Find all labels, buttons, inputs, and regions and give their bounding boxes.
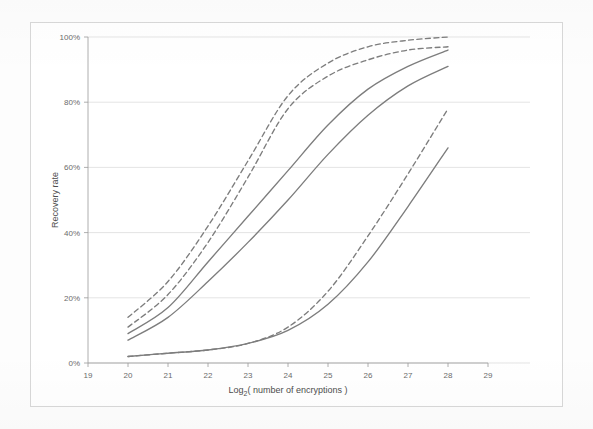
y-tick-label: 60%: [64, 163, 80, 172]
x-tick-label: 22: [204, 371, 213, 380]
x-tick-label: 27: [404, 371, 413, 380]
x-tick-label: 26: [364, 371, 373, 380]
y-tick-marks: [84, 37, 88, 363]
y-tick-label: 80%: [64, 98, 80, 107]
x-tick-label: 23: [244, 371, 253, 380]
y-tick-label: 20%: [64, 294, 80, 303]
x-tick-marks: [88, 363, 488, 367]
x-tick-label: 28: [444, 371, 453, 380]
data-series-group: [128, 37, 448, 356]
chart-figure: 0%20%40%60%80%100% 192021222324252627282…: [0, 0, 593, 429]
y-tick-label: 100%: [60, 33, 80, 42]
x-tick-label: 24: [284, 371, 293, 380]
y-axis-title: Recovery rate: [50, 172, 60, 228]
x-tick-label: 21: [164, 371, 173, 380]
x-tick-labels: 1920212223242526272829: [84, 371, 493, 380]
x-tick-label: 20: [124, 371, 133, 380]
x-tick-label: 29: [484, 371, 493, 380]
series-upper-dashed-1: [128, 37, 448, 317]
x-tick-label: 19: [84, 371, 93, 380]
gridlines: [88, 37, 530, 363]
y-tick-label: 40%: [64, 229, 80, 238]
y-tick-label: 0%: [68, 359, 80, 368]
x-axis-title: Log2( number of encryptions ): [229, 385, 348, 397]
series-lower-solid: [128, 148, 448, 357]
series-upper-solid-1: [128, 50, 448, 334]
y-tick-labels: 0%20%40%60%80%100%: [60, 33, 80, 368]
x-tick-label: 25: [324, 371, 333, 380]
recovery-rate-line-chart: 0%20%40%60%80%100% 192021222324252627282…: [0, 0, 593, 429]
